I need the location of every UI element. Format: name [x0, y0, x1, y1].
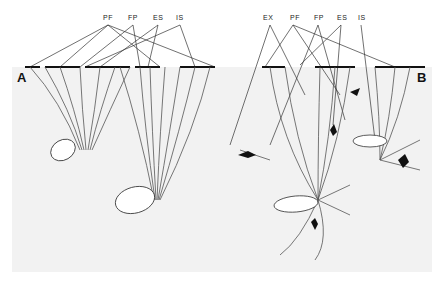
label-a-pf: PF [103, 14, 113, 21]
label-a-is: IS [176, 14, 184, 21]
label-b-es: ES [337, 14, 347, 21]
label-b-fp: FP [314, 14, 324, 21]
root-system-figure: PF FP ES IS EX PF FP ES IS A B [0, 0, 442, 282]
label-a-fp: FP [128, 14, 138, 21]
panel-letter-a: A [17, 70, 26, 85]
label-b-ex: EX [263, 14, 273, 21]
label-b-is: IS [358, 14, 366, 21]
label-b-pf: PF [290, 14, 300, 21]
figure-drawing [0, 0, 442, 282]
label-a-es: ES [153, 14, 163, 21]
panel-letter-b: B [417, 70, 426, 85]
